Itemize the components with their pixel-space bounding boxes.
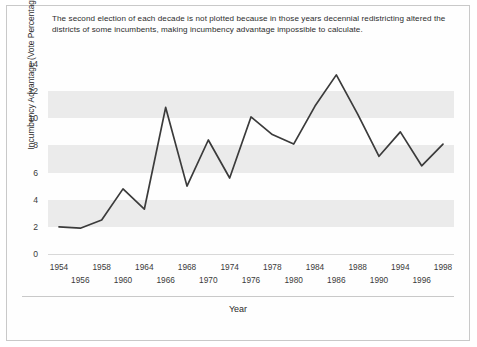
x-tick-label: 1998 xyxy=(434,262,452,272)
x-tick-label: 1984 xyxy=(306,262,324,272)
x-axis-title: Year xyxy=(22,304,454,314)
x-tick-label: 1968 xyxy=(178,262,196,272)
x-tick-label: 1960 xyxy=(114,275,132,285)
x-tick-label: 1990 xyxy=(370,275,388,285)
x-tick-label: 1958 xyxy=(92,262,110,272)
y-axis-ticks: 02468101214 xyxy=(0,64,44,254)
x-tick-label: 1970 xyxy=(199,275,217,285)
y-tick-label: 4 xyxy=(33,195,38,205)
figure: The second election of each decade is no… xyxy=(0,0,477,347)
x-tick-label: 1956 xyxy=(71,275,89,285)
x-axis-line xyxy=(48,254,454,255)
plot-area xyxy=(48,64,454,254)
y-tick-label: 2 xyxy=(33,222,38,232)
y-tick-label: 6 xyxy=(33,168,38,178)
x-tick-label: 1988 xyxy=(348,262,366,272)
x-tick-label: 1994 xyxy=(391,262,409,272)
x-tick-label: 1980 xyxy=(284,275,302,285)
x-tick-label: 1996 xyxy=(412,275,430,285)
y-tick-label: 12 xyxy=(28,86,38,96)
x-tick-label: 1978 xyxy=(263,262,281,272)
x-tick-label: 1964 xyxy=(135,262,153,272)
x-tick-label: 1966 xyxy=(156,275,174,285)
x-tick-label: 1986 xyxy=(327,275,345,285)
chart-caption: The second election of each decade is no… xyxy=(52,13,452,36)
line-series xyxy=(48,64,454,254)
y-tick-label: 14 xyxy=(28,59,38,69)
axis-separator xyxy=(22,296,454,297)
x-axis-ticks: 1954195619581960196419661968197019741976… xyxy=(48,256,454,290)
x-tick-label: 1974 xyxy=(220,262,238,272)
y-tick-label: 0 xyxy=(33,249,38,259)
y-tick-label: 10 xyxy=(28,113,38,123)
x-tick-label: 1954 xyxy=(50,262,68,272)
y-tick-label: 8 xyxy=(33,140,38,150)
x-tick-label: 1976 xyxy=(242,275,260,285)
series-polyline xyxy=(59,75,443,228)
